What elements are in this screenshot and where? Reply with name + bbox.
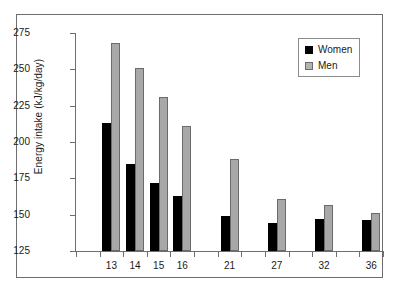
y-tick-label: 250 bbox=[0, 64, 30, 74]
bar-men-15 bbox=[159, 97, 168, 251]
x-tick bbox=[359, 252, 360, 257]
bar-men-14 bbox=[135, 68, 144, 251]
x-axis-line bbox=[75, 251, 384, 252]
legend-item-men: Men bbox=[305, 59, 352, 72]
legend-label-men: Men bbox=[318, 61, 337, 71]
y-tick-label: 200 bbox=[0, 137, 30, 147]
legend-item-women: Women bbox=[305, 43, 352, 56]
bar-women-13 bbox=[102, 123, 111, 251]
x-tick bbox=[123, 252, 124, 257]
bar-men-32 bbox=[324, 205, 333, 252]
x-tick bbox=[241, 252, 242, 257]
bar-men-21 bbox=[230, 159, 239, 251]
chart-frame: Energy intake (kJ/kg/day) 12515017520022… bbox=[16, 14, 383, 278]
y-tick-label: 275 bbox=[0, 28, 30, 38]
bar-women-36 bbox=[362, 220, 371, 251]
bar-women-27 bbox=[268, 223, 277, 251]
y-tick-label: 175 bbox=[0, 173, 30, 183]
legend-swatch-women bbox=[305, 46, 313, 54]
bar-women-32 bbox=[315, 219, 324, 251]
legend-swatch-men bbox=[305, 62, 313, 70]
bar-men-16 bbox=[182, 126, 191, 251]
x-tick-label: 36 bbox=[354, 260, 388, 271]
x-tick-label: 21 bbox=[213, 260, 247, 271]
bar-women-16 bbox=[173, 196, 182, 251]
bar-men-36 bbox=[371, 213, 380, 251]
y-tick-label: 125 bbox=[0, 246, 30, 256]
x-tick bbox=[218, 252, 219, 257]
bar-men-27 bbox=[277, 199, 286, 251]
x-tick-label: 32 bbox=[307, 260, 341, 271]
bar-men-13 bbox=[111, 43, 120, 251]
x-tick-label: 16 bbox=[165, 260, 199, 271]
x-tick bbox=[76, 252, 77, 257]
x-tick bbox=[194, 252, 195, 257]
x-tick bbox=[100, 252, 101, 257]
legend-label-women: Women bbox=[318, 45, 352, 55]
y-axis-title: Energy intake (kJ/kg/day) bbox=[33, 22, 44, 212]
bar-women-15 bbox=[150, 183, 159, 251]
x-tick bbox=[170, 252, 171, 257]
x-tick bbox=[265, 252, 266, 257]
y-tick-label: 150 bbox=[0, 210, 30, 220]
bar-women-21 bbox=[221, 216, 230, 251]
y-tick-label: 225 bbox=[0, 101, 30, 111]
x-tick bbox=[312, 252, 313, 257]
x-tick bbox=[383, 252, 384, 257]
x-tick bbox=[336, 252, 337, 257]
figure-caption-partial bbox=[36, 288, 366, 297]
x-tick bbox=[289, 252, 290, 257]
x-tick bbox=[147, 252, 148, 257]
legend: Women Men bbox=[298, 38, 360, 77]
bar-women-14 bbox=[126, 164, 135, 251]
x-tick-label: 27 bbox=[260, 260, 294, 271]
figure-container: Energy intake (kJ/kg/day) 12515017520022… bbox=[0, 0, 399, 300]
